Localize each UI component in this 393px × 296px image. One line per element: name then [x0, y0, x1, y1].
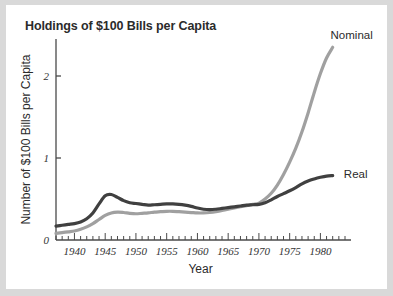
- axes-group: 012194019451950195519601965197019751980Y…: [19, 39, 351, 276]
- series-label-real: Real: [344, 168, 368, 180]
- y-tick-label: 1: [44, 152, 50, 164]
- y-tick-label: 0: [44, 234, 50, 246]
- series-labels-group: NominalReal: [331, 29, 373, 180]
- x-tick-label: 1940: [63, 245, 86, 257]
- series-group: [56, 47, 333, 233]
- x-tick-label: 1975: [279, 245, 302, 257]
- x-tick-label: 1960: [186, 245, 209, 257]
- x-tick-label: 1970: [248, 245, 271, 257]
- series-label-nominal: Nominal: [331, 29, 373, 41]
- y-tick-label: 2: [44, 70, 50, 82]
- x-tick-label: 1955: [156, 245, 179, 257]
- chart-plot: 012194019451950195519601965197019751980Y…: [6, 5, 387, 289]
- series-line-real: [56, 176, 333, 226]
- x-axis-title: Year: [188, 262, 212, 276]
- x-tick-label: 1980: [309, 245, 332, 257]
- x-tick-label: 1950: [125, 245, 148, 257]
- figure-card: Holdings of $100 Bills per Capita 012194…: [6, 5, 387, 289]
- y-axis-title: Number of $100 Bills per Capita: [19, 54, 33, 224]
- x-tick-label: 1965: [217, 245, 240, 257]
- x-tick-label: 1945: [94, 245, 117, 257]
